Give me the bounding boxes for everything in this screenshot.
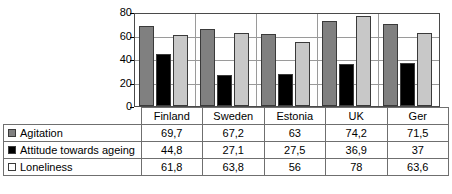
table-cell-value: 69,7 xyxy=(141,125,203,142)
y-axis-tick-mark xyxy=(130,60,134,61)
bar-group-inner xyxy=(379,14,439,106)
table-cell-value: 63,6 xyxy=(387,159,449,176)
bar xyxy=(261,34,276,106)
table-cell-value: 78 xyxy=(326,159,388,176)
bar xyxy=(356,16,371,106)
plot-area xyxy=(134,13,440,107)
table-cell-value: 61,8 xyxy=(141,159,203,176)
bar xyxy=(156,54,171,106)
y-axis-tick-mark xyxy=(130,13,134,14)
bar xyxy=(400,63,415,106)
legend-label: Loneliness xyxy=(20,162,73,174)
column-header-estonia: Estonia xyxy=(264,108,326,125)
table-row: Attitude towards ageing44,827,127,536,93… xyxy=(4,142,449,159)
bar xyxy=(383,24,398,106)
column-header-sweden: Sweden xyxy=(203,108,265,125)
table-cell-value: 67,2 xyxy=(203,125,265,142)
legend-entry: Attitude towards ageing xyxy=(4,142,142,159)
legend-swatch-icon xyxy=(8,163,16,171)
chart-plot-region: 020406080 xyxy=(0,0,452,124)
bar-group-inner xyxy=(257,14,317,106)
legend-label: Agitation xyxy=(20,128,63,140)
table-cell-value: 71,5 xyxy=(387,125,449,142)
table-cell-value: 44,8 xyxy=(141,142,203,159)
bar xyxy=(200,29,215,106)
bar-group xyxy=(318,14,379,106)
legend-entry: Loneliness xyxy=(4,159,142,176)
bar-group xyxy=(196,14,257,106)
table-cell-value: 37 xyxy=(387,142,449,159)
bar xyxy=(173,35,188,106)
data-table: FinlandSwedenEstoniaUKGerAgitation69,767… xyxy=(3,107,449,176)
bar xyxy=(417,33,432,106)
bar-groups xyxy=(135,14,439,106)
bar xyxy=(295,42,310,106)
table-cell-value: 63 xyxy=(264,125,326,142)
bar xyxy=(234,33,249,106)
column-header-uk: UK xyxy=(326,108,388,125)
y-axis: 020406080 xyxy=(108,0,132,124)
legend-swatch-icon xyxy=(8,129,16,137)
table-corner-cell xyxy=(4,108,142,125)
bar xyxy=(139,26,154,106)
bar xyxy=(322,21,337,106)
bar-group xyxy=(257,14,318,106)
bar-group xyxy=(135,14,196,106)
column-header-ger: Ger xyxy=(387,108,449,125)
table-row: Loneliness61,863,8567863,6 xyxy=(4,159,449,176)
y-axis-tick-mark xyxy=(130,84,134,85)
bar xyxy=(278,74,293,106)
table-row: Agitation69,767,26374,271,5 xyxy=(4,125,449,142)
bar-group-inner xyxy=(135,14,195,106)
legend-swatch-icon xyxy=(8,146,16,154)
chart-figure: 020406080 FinlandSwedenEstoniaUKGerAgita… xyxy=(0,0,452,194)
legend-entry: Agitation xyxy=(4,125,142,142)
bar-group-inner xyxy=(196,14,256,106)
table-cell-value: 27,5 xyxy=(264,142,326,159)
legend-value-table: FinlandSwedenEstoniaUKGerAgitation69,767… xyxy=(3,107,449,176)
table-cell-value: 74,2 xyxy=(326,125,388,142)
bar xyxy=(217,75,232,106)
table-row-categories: FinlandSwedenEstoniaUKGer xyxy=(4,108,449,125)
column-header-finland: Finland xyxy=(141,108,203,125)
bar xyxy=(339,64,354,106)
table-cell-value: 63,8 xyxy=(203,159,265,176)
legend-label: Attitude towards ageing xyxy=(20,145,135,157)
y-axis-tick-mark xyxy=(130,37,134,38)
bar-group-inner xyxy=(318,14,378,106)
table-cell-value: 27,1 xyxy=(203,142,265,159)
table-cell-value: 36,9 xyxy=(326,142,388,159)
bar-group xyxy=(379,14,439,106)
table-cell-value: 56 xyxy=(264,159,326,176)
